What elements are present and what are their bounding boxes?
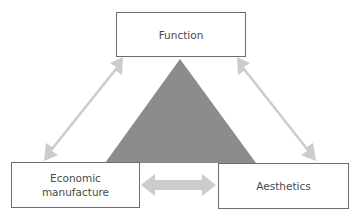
node-function-label: Function	[159, 28, 204, 42]
arrow-function-aesthetics	[237, 57, 316, 161]
node-economic-manufacture: Economic manufacture	[11, 162, 140, 208]
arrow-economic-aesthetics	[141, 174, 216, 196]
arrow-function-economic	[44, 57, 123, 161]
diagram-canvas: Function Economic manufacture Aesthetics	[0, 0, 358, 216]
node-aesthetics: Aesthetics	[218, 163, 349, 209]
center-triangle	[105, 59, 256, 163]
node-function: Function	[116, 12, 246, 57]
node-aesthetics-label: Aesthetics	[256, 179, 310, 193]
node-economic-manufacture-label: Economic manufacture	[42, 171, 109, 199]
